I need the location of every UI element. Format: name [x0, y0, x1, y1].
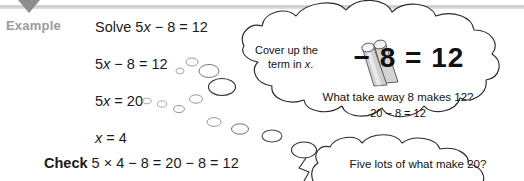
thought-tail-dot	[232, 124, 249, 134]
worksheet-page: Example Solve 5x − 8 = 12 5x − 8 = 12 5x…	[0, 0, 524, 181]
thought-tail-dot	[292, 142, 317, 158]
bubble-answer-take-away: 20 − 8 = 12	[370, 107, 426, 119]
bubble-question-take-away: What take away 8 makes 12?	[323, 91, 474, 103]
thought-tail-dot	[262, 130, 282, 142]
thought-tail-dot	[199, 65, 219, 78]
thought-tail-dot	[190, 95, 203, 103]
thought-bubble-tail	[299, 158, 309, 181]
cover-up-text-line2: term in x.	[268, 58, 313, 70]
thought-tail-dot	[186, 58, 198, 66]
bubble-question-five-lots: Five lots of what make 20?	[350, 158, 487, 170]
thought-tail-dot	[143, 98, 151, 104]
bubble-big-equation: − 8 = 12	[354, 42, 465, 74]
thought-tail-dot	[157, 101, 166, 107]
thought-tail-dot	[176, 68, 184, 74]
cover-up-text-line1: Cover up the	[255, 44, 318, 56]
thought-tail-dot	[174, 105, 185, 112]
thought-tail-dot	[207, 118, 221, 127]
thought-tail-dot	[209, 79, 236, 96]
